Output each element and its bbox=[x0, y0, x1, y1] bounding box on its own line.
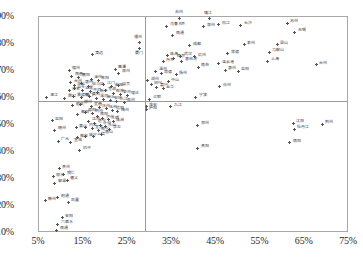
plus-marker-icon bbox=[315, 63, 318, 66]
plus-marker-icon bbox=[80, 96, 83, 99]
plus-marker-icon bbox=[87, 85, 90, 88]
y-tick-label: 20% bbox=[0, 200, 14, 210]
data-point-label: 连云港 bbox=[222, 60, 233, 64]
plus-marker-icon bbox=[102, 83, 105, 86]
data-point-label: 南通 bbox=[176, 31, 184, 35]
plus-marker-icon bbox=[56, 196, 59, 199]
vertical-reference-line bbox=[145, 17, 146, 231]
plus-marker-icon bbox=[276, 43, 279, 46]
plus-marker-icon bbox=[286, 22, 289, 25]
plus-marker-icon bbox=[76, 136, 79, 139]
plus-marker-icon bbox=[68, 89, 71, 92]
plus-marker-icon bbox=[218, 85, 221, 88]
plus-marker-icon bbox=[88, 95, 91, 98]
data-point-label: 随州 bbox=[58, 127, 66, 131]
y-tick-label: 50% bbox=[0, 119, 14, 129]
plus-marker-icon bbox=[217, 23, 220, 26]
plus-marker-icon bbox=[84, 135, 87, 138]
plus-marker-icon bbox=[96, 115, 99, 118]
plus-marker-icon bbox=[224, 69, 227, 72]
plus-marker-icon bbox=[102, 98, 105, 101]
y-tick-label: 10% bbox=[0, 227, 14, 237]
data-point-label: 郑州 bbox=[201, 121, 209, 125]
plus-marker-icon bbox=[292, 122, 295, 125]
data-point-label: 乌鲁木齐 bbox=[170, 22, 185, 26]
data-point-label: 惠州 bbox=[228, 67, 236, 71]
data-point-label: 泉州 bbox=[122, 69, 130, 73]
data-point-label: 眉山 bbox=[105, 130, 113, 134]
plus-marker-icon bbox=[72, 95, 75, 98]
data-point-label: 巴中 bbox=[83, 146, 91, 150]
data-point-label: 无锡 bbox=[298, 28, 306, 32]
data-point-label: 金华 bbox=[166, 85, 174, 89]
plus-marker-icon bbox=[55, 229, 58, 232]
plus-marker-icon bbox=[179, 55, 182, 58]
plus-marker-icon bbox=[288, 141, 291, 144]
data-point-label: 安阳 bbox=[65, 214, 73, 218]
plus-marker-icon bbox=[116, 110, 119, 113]
plus-marker-icon bbox=[84, 111, 87, 114]
data-point-label: 滁州 bbox=[127, 98, 135, 102]
plus-marker-icon bbox=[239, 24, 242, 27]
data-point-label: 徐州 bbox=[223, 83, 231, 87]
plus-marker-icon bbox=[96, 91, 99, 94]
plus-marker-icon bbox=[162, 60, 165, 63]
plus-marker-icon bbox=[99, 124, 102, 127]
plus-marker-icon bbox=[71, 104, 74, 107]
x-tick-label: 35% bbox=[149, 236, 193, 246]
data-point-label: 泉州 bbox=[207, 23, 215, 27]
y-tick-label: 90% bbox=[0, 11, 14, 21]
data-point-label: 台州 bbox=[319, 61, 327, 65]
data-point-label: 泰州 bbox=[247, 41, 255, 45]
plus-marker-icon bbox=[172, 57, 175, 60]
plus-marker-icon bbox=[111, 109, 114, 112]
plus-marker-icon bbox=[226, 52, 229, 55]
plus-marker-icon bbox=[194, 96, 197, 99]
plus-marker-icon bbox=[146, 79, 149, 82]
plus-marker-icon bbox=[51, 119, 54, 122]
plus-marker-icon bbox=[97, 79, 100, 82]
plus-marker-icon bbox=[98, 106, 101, 109]
plus-marker-icon bbox=[148, 98, 151, 101]
plus-marker-icon bbox=[162, 87, 165, 90]
data-point-label: 庐阳 bbox=[149, 106, 157, 110]
plus-marker-icon bbox=[69, 141, 72, 144]
data-point-label: 株洲 bbox=[116, 118, 124, 122]
data-point-label: 苏州 bbox=[290, 20, 298, 24]
plus-marker-icon bbox=[154, 70, 157, 73]
data-point-label: 黎温 bbox=[58, 179, 66, 183]
plus-marker-icon bbox=[114, 68, 117, 71]
data-point-label: 昆山 bbox=[280, 41, 288, 45]
plus-marker-icon bbox=[100, 133, 103, 136]
plus-marker-icon bbox=[178, 17, 181, 20]
plus-marker-icon bbox=[91, 53, 94, 56]
y-tick-label: 30% bbox=[0, 173, 14, 183]
data-point-label: 昭通 bbox=[61, 194, 69, 198]
y-tick-label: 60% bbox=[0, 92, 14, 102]
plus-marker-icon bbox=[70, 75, 73, 78]
data-point-label: 南通 bbox=[60, 226, 68, 230]
data-point-label: 常德 bbox=[231, 50, 239, 54]
plus-marker-icon bbox=[77, 76, 80, 79]
data-point-label: 贵阳 bbox=[201, 144, 209, 148]
data-point-label: 宿州 bbox=[72, 67, 80, 71]
plus-marker-icon bbox=[119, 93, 122, 96]
plus-marker-icon bbox=[93, 122, 96, 125]
plus-marker-icon bbox=[104, 125, 107, 128]
plus-marker-icon bbox=[321, 123, 324, 126]
plus-marker-icon bbox=[78, 149, 81, 152]
data-point-label: 松江 bbox=[222, 21, 230, 25]
plus-marker-icon bbox=[266, 60, 269, 63]
plus-marker-icon bbox=[45, 96, 48, 99]
x-tick-label: 5% bbox=[16, 236, 60, 246]
plus-marker-icon bbox=[73, 84, 76, 87]
plus-marker-icon bbox=[63, 97, 66, 100]
plus-marker-icon bbox=[112, 92, 115, 95]
data-point-label: 牡丹江 bbox=[297, 125, 308, 129]
plus-marker-icon bbox=[171, 34, 174, 37]
plus-marker-icon bbox=[150, 83, 153, 86]
plus-marker-icon bbox=[243, 43, 246, 46]
plus-marker-icon bbox=[293, 31, 296, 34]
plus-marker-icon bbox=[165, 25, 168, 28]
plus-marker-icon bbox=[196, 124, 199, 127]
